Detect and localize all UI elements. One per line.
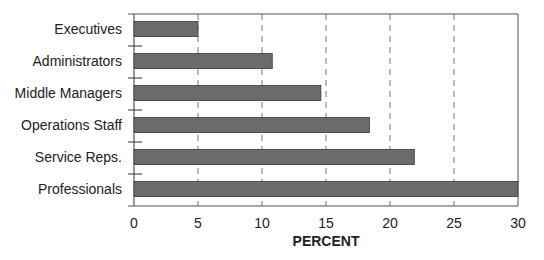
x-tick-label: 25 (446, 215, 462, 231)
category-label: Executives (54, 21, 122, 37)
bar (134, 22, 198, 37)
x-tick-label: 20 (382, 215, 398, 231)
category-label: Middle Managers (15, 85, 122, 101)
category-label: Service Reps. (35, 149, 122, 165)
category-labels: ExecutivesAdministratorsMiddle ManagersO… (15, 21, 122, 197)
x-axis-title: PERCENT (293, 233, 360, 249)
x-tick-labels: 051015202530 (130, 215, 526, 231)
bar (134, 150, 414, 165)
x-tick-label: 5 (194, 215, 202, 231)
x-tick-label: 10 (254, 215, 270, 231)
bar (134, 86, 321, 101)
category-label: Administrators (33, 53, 122, 69)
category-label: Professionals (38, 181, 122, 197)
bar (134, 182, 518, 197)
x-tick-label: 0 (130, 215, 138, 231)
plot-frame (128, 14, 518, 206)
x-tick-label: 30 (510, 215, 526, 231)
bar (134, 54, 272, 69)
horizontal-bar-chart: ExecutivesAdministratorsMiddle ManagersO… (0, 0, 544, 260)
category-label: Operations Staff (21, 117, 122, 133)
gridlines (198, 14, 454, 206)
bar (134, 118, 370, 133)
x-tick-label: 15 (318, 215, 334, 231)
